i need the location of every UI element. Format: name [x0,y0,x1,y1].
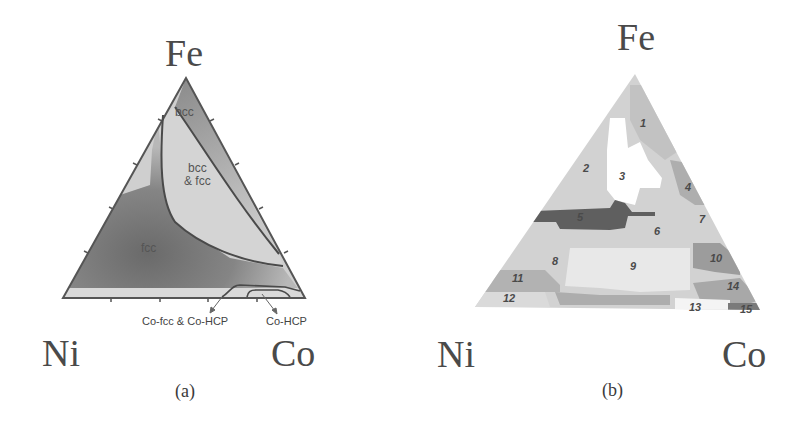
region-label-13: 13 [689,302,701,313]
region-label-10: 10 [710,253,722,264]
region-label-12: 12 [503,293,515,304]
region-label-15: 15 [740,304,752,315]
region-label-8: 8 [552,256,558,267]
region-label-2: 2 [583,163,589,174]
region-label-14: 14 [727,281,739,292]
region-label-7: 7 [699,214,705,225]
region-label-5: 5 [577,212,583,223]
region-label-4: 4 [685,182,691,193]
region-label-6: 6 [654,226,660,237]
vertex-label-ni-b: Ni [437,335,475,373]
vertex-label-fe-b: Fe [617,18,655,56]
region-label-11: 11 [512,273,523,284]
region-label-3: 3 [619,171,625,182]
vertex-label-co-b: Co [722,335,766,373]
caption-b: (b) [602,381,623,399]
region-label-9: 9 [630,261,636,272]
ternary-diagram-b [0,0,811,425]
region-label-1: 1 [640,118,646,129]
